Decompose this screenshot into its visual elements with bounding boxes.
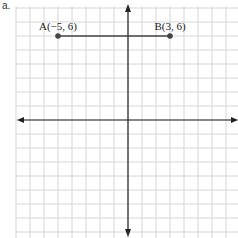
point-a [55,33,61,39]
point-b [167,33,173,39]
x-axis-right-arrow-icon [231,117,238,123]
grid-lines [16,6,238,238]
coordinate-grid: A(−5, 6)B(3, 6) [0,0,238,238]
axes [17,4,238,237]
y-axis-down-arrow-icon [125,229,131,237]
x-axis-left-arrow-icon [17,117,24,123]
point-label-a: A(−5, 6) [39,20,77,33]
point-label-b: B(3, 6) [154,20,186,33]
